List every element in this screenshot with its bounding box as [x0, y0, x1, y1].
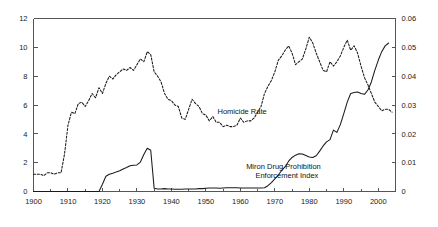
x-axis-tick-label: 1910 — [60, 197, 77, 206]
right-axis-tick-label: 0 — [402, 187, 406, 196]
miron-index-label: Miron Drug Prohibition — [246, 162, 321, 171]
right-axis-tick-label: 0.01 — [402, 158, 417, 167]
left-axis-tick-label: 0 — [23, 187, 27, 196]
right-axis-tick-label: 0.04 — [402, 72, 417, 81]
right-axis-tick-label: 0.02 — [402, 130, 417, 139]
data-series — [34, 37, 393, 191]
axis-ticks — [34, 19, 396, 192]
left-axis-tick-label: 10 — [19, 43, 27, 52]
right-axis-tick-label: 0.03 — [402, 101, 417, 110]
x-axis-tick-label: 1920 — [94, 197, 111, 206]
x-axis-tick-label: 1960 — [232, 197, 249, 206]
left-axis-tick-label: 4 — [23, 130, 27, 139]
series-line-miron-index — [34, 43, 389, 191]
right-axis-tick-label: 0.06 — [402, 14, 417, 23]
dual-axis-line-chart: 02468101200.010.020.030.040.050.06190019… — [0, 0, 438, 227]
chart-container: 02468101200.010.020.030.040.050.06190019… — [0, 0, 438, 227]
x-axis-tick-label: 2000 — [370, 197, 387, 206]
left-axis-tick-label: 6 — [23, 101, 27, 110]
x-axis-tick-label: 1930 — [129, 197, 146, 206]
x-axis-tick-label: 1940 — [163, 197, 180, 206]
x-axis-tick-label: 1900 — [25, 197, 42, 206]
x-axis-tick-label: 1950 — [198, 197, 215, 206]
left-axis-tick-label: 8 — [23, 72, 27, 81]
series-line-homicide-rate — [34, 37, 393, 175]
x-axis-tick-label: 1980 — [301, 197, 318, 206]
left-axis-tick-label: 12 — [19, 14, 27, 23]
left-axis-tick-label: 2 — [23, 158, 27, 167]
miron-index-label-line2: Enforcement Index — [255, 171, 318, 180]
axes — [34, 19, 396, 192]
homicide-rate-label: Homicide Rate — [217, 107, 266, 116]
x-axis-tick-label: 1970 — [266, 197, 283, 206]
x-axis-tick-label: 1990 — [335, 197, 352, 206]
series-annotations: Homicide RateMiron Drug ProhibitionEnfor… — [217, 107, 320, 180]
right-axis-tick-label: 0.05 — [402, 43, 417, 52]
